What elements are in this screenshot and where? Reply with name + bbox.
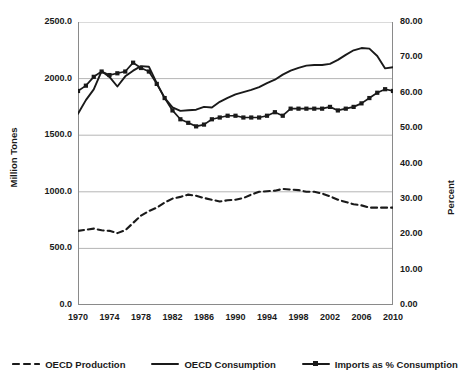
series-marker	[383, 87, 387, 91]
right-axis-tick-label: 20.00	[400, 228, 460, 238]
right-axis-tick-label: 10.00	[400, 264, 460, 274]
series-marker	[115, 71, 119, 75]
series-marker	[281, 114, 285, 118]
right-axis-tick-label: 60.00	[400, 87, 460, 97]
plot-area	[78, 22, 393, 305]
series-marker	[320, 107, 324, 111]
series-marker	[107, 73, 111, 77]
series-marker	[202, 122, 206, 126]
legend-label: OECD Production	[45, 359, 125, 370]
series-marker	[194, 124, 198, 128]
series-marker	[92, 75, 96, 79]
chart-svg	[78, 22, 393, 305]
left-axis-tick-label: 500.0	[0, 242, 72, 252]
series-marker	[273, 110, 277, 114]
series-marker	[218, 115, 222, 119]
series-marker	[265, 114, 269, 118]
series-marker	[210, 117, 214, 121]
right-axis-tick-label: 70.00	[400, 51, 460, 61]
series-marker	[304, 107, 308, 111]
series-marker	[155, 82, 159, 86]
series-marker	[257, 115, 261, 119]
series-marker	[100, 69, 104, 73]
left-axis-tick-label: 2500.0	[0, 16, 72, 26]
left-axis-tick-label: 2000.0	[0, 73, 72, 83]
legend-item[interactable]: OECD Consumption	[151, 358, 275, 370]
series-marker	[289, 107, 293, 111]
series-marker	[375, 91, 379, 95]
right-axis-tick-label: 30.00	[400, 193, 460, 203]
series-marker	[186, 121, 190, 125]
series-marker	[352, 105, 356, 109]
series-marker	[178, 117, 182, 121]
series-marker	[367, 96, 371, 100]
left-axis-tick-label: 0.0	[0, 299, 72, 309]
series-marker	[249, 115, 253, 119]
series-marker	[226, 114, 230, 118]
series-marker	[139, 66, 143, 70]
right-axis-tick-label: 0.00	[400, 299, 460, 309]
series-marker	[233, 114, 237, 118]
series-line	[78, 48, 393, 114]
chart-container: Million Tones Percent 0.0500.01000.01500…	[0, 0, 470, 388]
legend-item[interactable]: OECD Production	[12, 358, 125, 370]
series-marker	[328, 105, 332, 109]
series-marker	[84, 84, 88, 88]
series-marker	[163, 96, 167, 100]
legend-swatch-icon	[302, 358, 330, 370]
legend-label: Imports as % Consumption	[335, 359, 458, 370]
left-axis-title: Million Tones	[8, 98, 19, 218]
legend-item[interactable]: Imports as % Consumption	[302, 358, 458, 370]
series-marker	[336, 108, 340, 112]
legend-swatch-icon	[12, 358, 40, 370]
series-marker	[312, 107, 316, 111]
series-marker	[170, 108, 174, 112]
series-marker	[344, 107, 348, 111]
right-axis-tick-label: 40.00	[400, 158, 460, 168]
x-axis-tick-label: 2010	[363, 312, 423, 322]
legend-label: OECD Consumption	[184, 359, 275, 370]
left-axis-tick-label: 1500.0	[0, 129, 72, 139]
right-axis-tick-label: 50.00	[400, 122, 460, 132]
series-marker	[123, 69, 127, 73]
series-marker	[78, 89, 80, 93]
legend-swatch-icon	[151, 358, 179, 370]
series-marker	[391, 89, 393, 93]
right-axis-tick-label: 80.00	[400, 16, 460, 26]
series-marker	[241, 115, 245, 119]
series-line	[78, 189, 393, 233]
chart-legend: OECD ProductionOECD ConsumptionImports a…	[0, 358, 470, 370]
series-marker	[359, 101, 363, 105]
left-axis-tick-label: 1000.0	[0, 186, 72, 196]
series-marker	[147, 69, 151, 73]
series-marker	[131, 61, 135, 65]
series-marker	[296, 107, 300, 111]
